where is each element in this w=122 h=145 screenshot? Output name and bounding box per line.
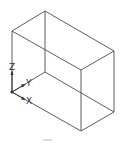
- edge-bottom-right: [81, 112, 114, 131]
- y-axis-label: Y: [25, 78, 32, 88]
- box-wireframe: [12, 11, 114, 131]
- z-axis-label: Z: [9, 62, 15, 72]
- ucs-icon: Z Y X: [9, 62, 32, 106]
- edge-top-back: [45, 11, 114, 51]
- edge-top-left: [12, 11, 45, 31]
- edge-top-right: [81, 51, 114, 70]
- edge-bottom-back: [45, 72, 114, 112]
- box-diagram: Z Y X: [0, 0, 122, 145]
- x-axis-label: X: [26, 96, 32, 106]
- edge-top-front: [12, 31, 81, 70]
